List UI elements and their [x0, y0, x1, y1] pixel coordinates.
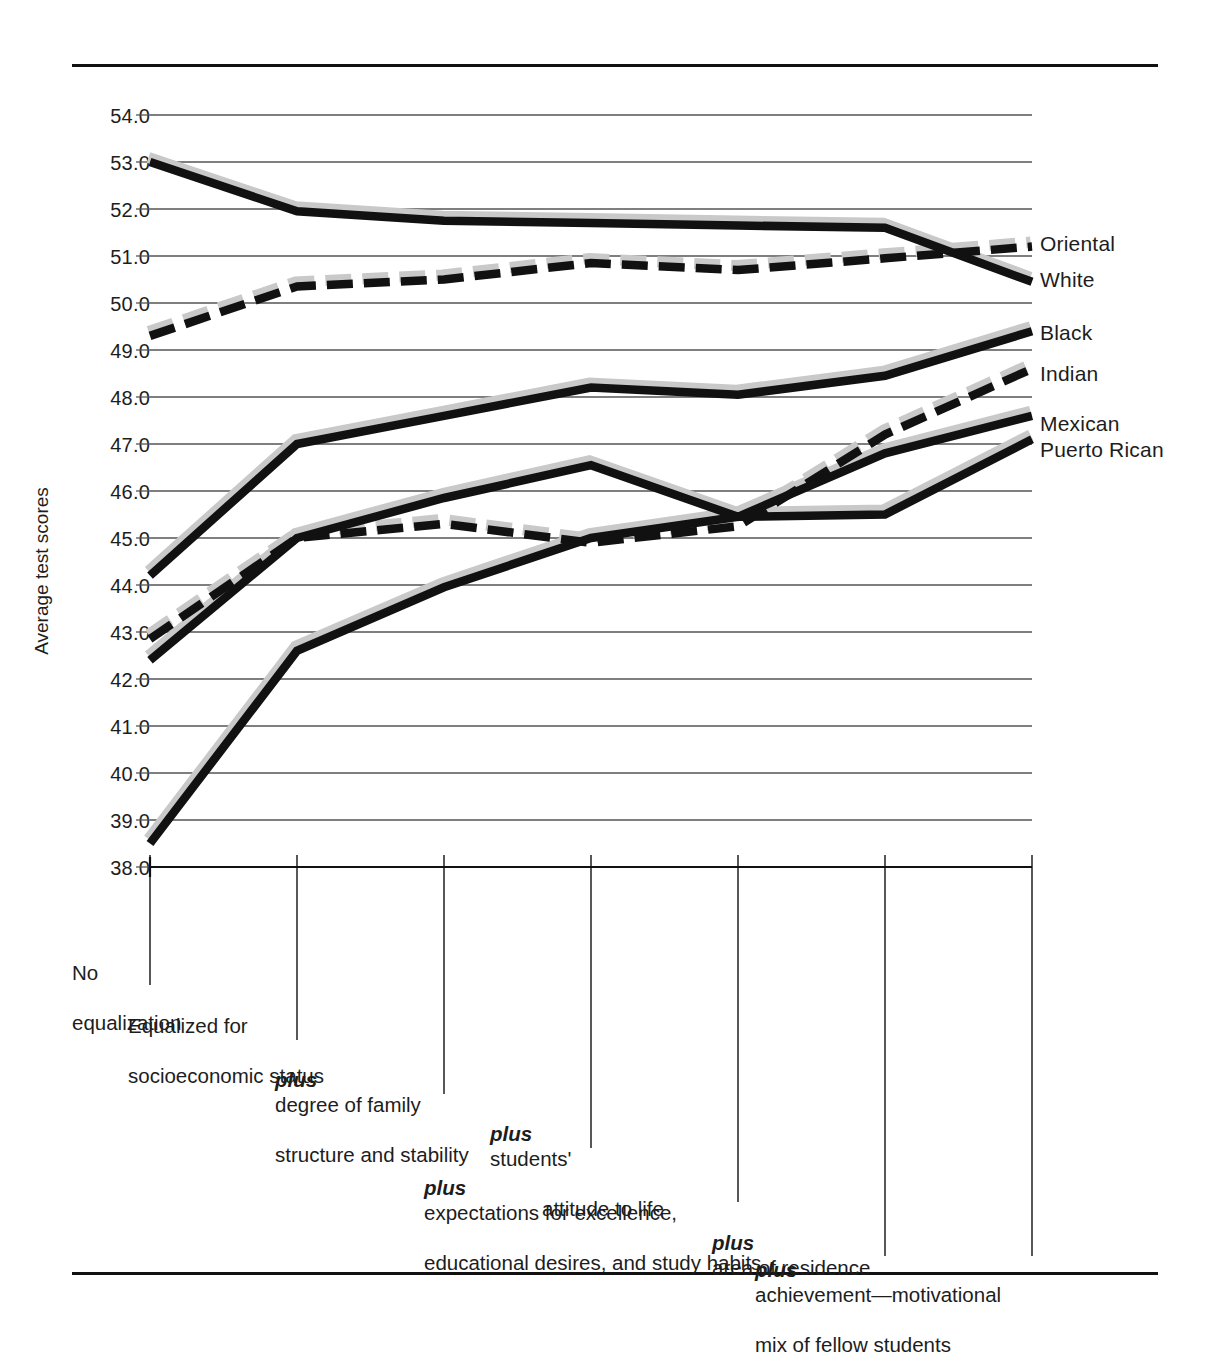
x-category-label-6: plus achievement—motivational mix of fel… — [755, 1232, 1001, 1356]
x-category-label-2: plus degree of family structure and stab… — [275, 1042, 469, 1167]
series-label-puerto-rican: Puerto Rican — [1040, 438, 1164, 462]
series-line-layer — [150, 162, 1032, 844]
x-category-prefix: plus — [755, 1258, 797, 1281]
series-label-mexican: Mexican — [1040, 412, 1120, 436]
x-category-line2: educational desires, and study habits — [424, 1251, 761, 1274]
x-category-line2: mix of fellow students — [755, 1333, 951, 1356]
x-category-line1: expectations for excellence, — [424, 1201, 677, 1224]
series-label-black: Black — [1040, 321, 1092, 345]
x-category-prefix: plus — [712, 1231, 754, 1254]
x-category-prefix: plus — [424, 1176, 466, 1199]
x-category-line1: degree of family — [275, 1093, 421, 1116]
x-category-line1: No — [72, 961, 98, 984]
x-category-label-4: plus expectations for excellence, educat… — [424, 1150, 761, 1275]
x-category-prefix: plus — [490, 1122, 532, 1145]
x-category-line1: achievement—motivational — [755, 1283, 1001, 1306]
series-line-oriental — [150, 247, 1032, 336]
series-label-oriental: Oriental — [1040, 232, 1115, 256]
series-label-indian: Indian — [1040, 362, 1098, 386]
x-category-prefix: plus — [275, 1068, 317, 1091]
series-label-white: White — [1040, 268, 1095, 292]
x-category-line1: Equalized for — [128, 1014, 248, 1037]
